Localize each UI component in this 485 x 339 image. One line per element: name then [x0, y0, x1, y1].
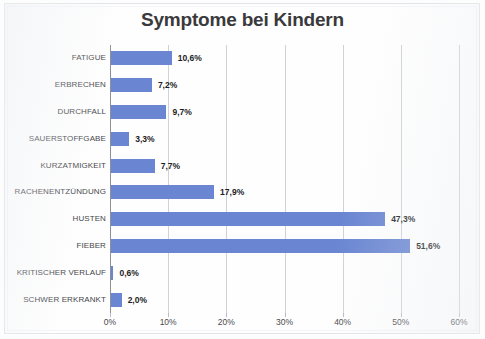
x-tick-label: 10% — [148, 317, 188, 327]
chart-screenshot: Symptome bei Kindern 10,6%7,2%9,7%3,3%7,… — [0, 0, 485, 339]
category-label: SCHWER ERKRANKT — [2, 293, 106, 307]
bar-value-label: 51,6% — [416, 239, 440, 253]
bar-value-label: 7,2% — [158, 78, 177, 92]
bar-value-label: 10,6% — [178, 51, 202, 65]
bar-value-label: 9,7% — [172, 105, 191, 119]
bar[interactable] — [110, 212, 385, 226]
category-label: FIEBER — [2, 239, 106, 253]
x-tick-label: 20% — [206, 317, 246, 327]
bar-value-label: 0,6% — [119, 266, 138, 280]
bar-value-label: 2,0% — [128, 293, 147, 307]
bar-value-label: 7,7% — [161, 159, 180, 173]
bar[interactable] — [110, 51, 172, 65]
bar[interactable] — [110, 78, 152, 92]
category-axis: FATIGUEERBRECHENDURCHFALLSAUERSTOFFGABEK… — [0, 45, 106, 313]
gridline-50 — [401, 45, 402, 313]
bar-value-label: 3,3% — [135, 132, 154, 146]
category-label: HUSTEN — [2, 212, 106, 226]
gridline-60 — [459, 45, 460, 313]
bar-value-label: 47,3% — [391, 212, 415, 226]
bar[interactable] — [110, 239, 410, 253]
x-tick-label: 40% — [323, 317, 363, 327]
chart-title: Symptome bei Kindern — [0, 9, 485, 31]
bar[interactable] — [110, 159, 155, 173]
x-tick-label: 50% — [381, 317, 421, 327]
bar-value-label: 17,9% — [220, 185, 244, 199]
bar[interactable] — [110, 105, 166, 119]
gridline-20 — [226, 45, 227, 313]
plot-area: 10,6%7,2%9,7%3,3%7,7%17,9%47,3%51,6%0,6%… — [110, 45, 459, 313]
category-label: ERBRECHEN — [2, 78, 106, 92]
bar[interactable] — [110, 293, 122, 307]
bar[interactable] — [110, 132, 129, 146]
x-tick-label: 30% — [265, 317, 305, 327]
gridline-40 — [343, 45, 344, 313]
category-label: RACHENENTZÜNDUNG — [2, 185, 106, 199]
x-tick-label: 60% — [439, 317, 479, 327]
x-tick-label: 0% — [90, 317, 130, 327]
gridline-30 — [285, 45, 286, 313]
category-label: KRITISCHER VERLAUF — [2, 266, 106, 280]
category-label: SAUERSTOFFGABE — [2, 132, 106, 146]
category-label: DURCHFALL — [2, 105, 106, 119]
category-label: KURZATMIGKEIT — [2, 159, 106, 173]
bar[interactable] — [110, 185, 214, 199]
category-label: FATIGUE — [2, 51, 106, 65]
value-axis-line — [110, 45, 111, 314]
